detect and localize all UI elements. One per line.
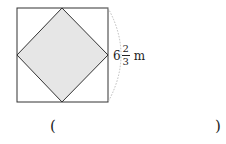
- fraction-numerator: 2: [122, 44, 128, 54]
- side-length-whole: 6: [113, 49, 121, 63]
- side-length-unit: m: [134, 49, 145, 63]
- side-length-label: 6 2 3 m: [113, 44, 145, 67]
- side-length-fraction: 2 3: [122, 44, 130, 67]
- square-rhombus-figure: [0, 0, 226, 144]
- answer-open-paren: (: [50, 117, 56, 135]
- fraction-denominator: 3: [122, 57, 128, 67]
- answer-close-paren: ): [215, 117, 221, 135]
